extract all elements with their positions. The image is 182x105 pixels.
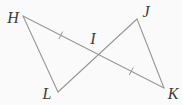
segment-JK [137, 19, 164, 88]
segment-HL [23, 16, 58, 92]
segment-LJ [58, 19, 137, 92]
figure-container: HJILK [0, 0, 182, 105]
vertex-label-K: K [167, 85, 180, 102]
geometry-diagram: HJILK [0, 0, 182, 105]
vertex-label-L: L [42, 85, 52, 102]
vertex-label-J: J [142, 3, 150, 20]
tick-mark-HI [59, 32, 63, 40]
tick-mark-IK [129, 68, 133, 76]
vertex-label-H: H [6, 9, 20, 26]
segment-HK [23, 16, 164, 88]
vertex-label-I: I [89, 30, 96, 47]
